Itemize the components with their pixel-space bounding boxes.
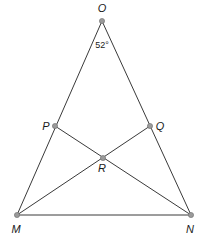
point-p <box>52 123 57 128</box>
point-q <box>147 123 152 128</box>
angle-label-o: 52° <box>95 40 109 50</box>
label-n: N <box>186 223 194 235</box>
label-r: R <box>98 162 106 174</box>
geometry-diagram: O P Q R M N 52° <box>0 0 205 243</box>
segment-om <box>17 21 102 215</box>
point-r <box>100 155 105 160</box>
label-q: Q <box>156 120 165 132</box>
point-n <box>188 212 193 217</box>
point-m <box>14 212 19 217</box>
label-p: P <box>42 120 50 132</box>
point-o <box>99 18 104 23</box>
label-o: O <box>98 2 107 14</box>
label-m: M <box>11 223 21 235</box>
